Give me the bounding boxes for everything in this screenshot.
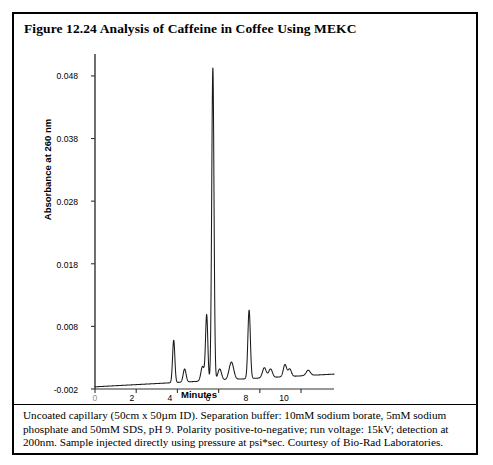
figure-frame: Figure 12.24 Analysis of Caffeine in Cof… — [12, 12, 478, 455]
chromatogram-trace — [95, 68, 334, 387]
chromatogram-svg — [14, 14, 476, 404]
caption-divider — [14, 404, 476, 405]
chromatogram-plot: Absorbance at 260 nm Minutes 0.048 0.038… — [14, 14, 476, 404]
figure-caption: Uncoated capillary (50cm x 50µm ID). Sep… — [23, 409, 471, 450]
